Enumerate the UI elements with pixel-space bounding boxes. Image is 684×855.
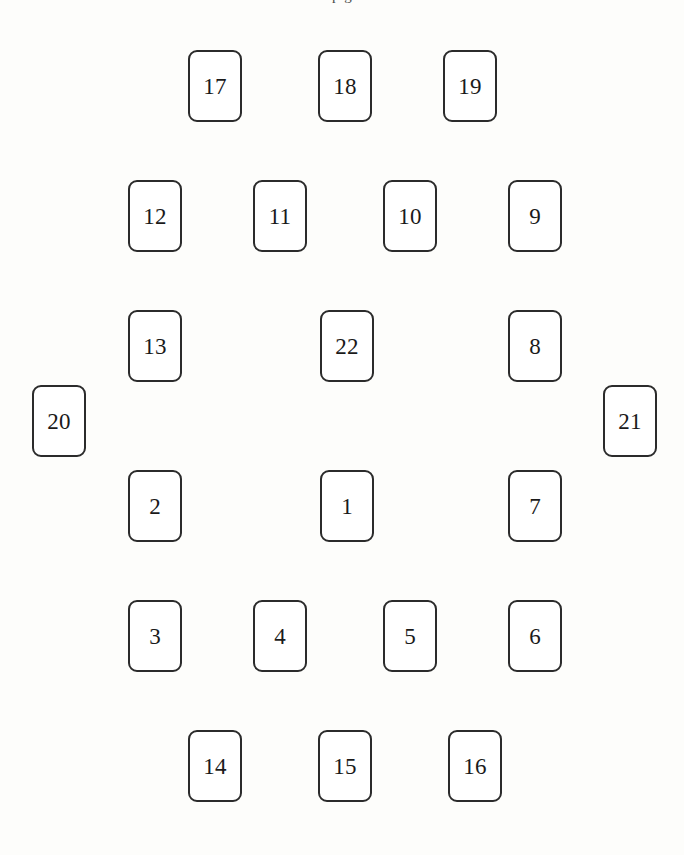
- card-number-label: 12: [143, 205, 166, 228]
- card-number-label: 4: [274, 625, 286, 648]
- card-number-label: 17: [203, 75, 226, 98]
- card-4[interactable]: 4: [253, 600, 307, 672]
- card-number-label: 6: [529, 625, 541, 648]
- card-5[interactable]: 5: [383, 600, 437, 672]
- card-18[interactable]: 18: [318, 50, 372, 122]
- card-17[interactable]: 17: [188, 50, 242, 122]
- card-number-label: 8: [529, 335, 541, 358]
- card-number-label: 21: [618, 410, 641, 433]
- card-19[interactable]: 19: [443, 50, 497, 122]
- card-8[interactable]: 8: [508, 310, 562, 382]
- card-number-label: 5: [404, 625, 416, 648]
- card-20[interactable]: 20: [32, 385, 86, 457]
- clipped-caption-text: p g: [0, 0, 684, 4]
- card-number-label: 15: [333, 755, 356, 778]
- card-number-label: 19: [458, 75, 481, 98]
- card-number-label: 13: [143, 335, 166, 358]
- card-number-label: 3: [149, 625, 161, 648]
- card-1[interactable]: 1: [320, 470, 374, 542]
- card-number-label: 11: [269, 205, 292, 228]
- card-22[interactable]: 22: [320, 310, 374, 382]
- card-9[interactable]: 9: [508, 180, 562, 252]
- card-12[interactable]: 12: [128, 180, 182, 252]
- card-6[interactable]: 6: [508, 600, 562, 672]
- card-16[interactable]: 16: [448, 730, 502, 802]
- card-number-label: 14: [203, 755, 226, 778]
- card-number-label: 1: [341, 495, 353, 518]
- card-number-label: 20: [47, 410, 70, 433]
- card-number-label: 10: [398, 205, 421, 228]
- card-number-label: 7: [529, 495, 541, 518]
- card-number-label: 18: [333, 75, 356, 98]
- card-7[interactable]: 7: [508, 470, 562, 542]
- card-number-label: 22: [335, 335, 358, 358]
- card-13[interactable]: 13: [128, 310, 182, 382]
- card-2[interactable]: 2: [128, 470, 182, 542]
- card-14[interactable]: 14: [188, 730, 242, 802]
- card-spread-diagram: p g 17181912111091322820212173456141516: [0, 0, 684, 855]
- card-number-label: 16: [463, 755, 486, 778]
- card-10[interactable]: 10: [383, 180, 437, 252]
- card-15[interactable]: 15: [318, 730, 372, 802]
- card-number-label: 2: [149, 495, 161, 518]
- card-number-label: 9: [529, 205, 541, 228]
- card-21[interactable]: 21: [603, 385, 657, 457]
- card-11[interactable]: 11: [253, 180, 307, 252]
- card-3[interactable]: 3: [128, 600, 182, 672]
